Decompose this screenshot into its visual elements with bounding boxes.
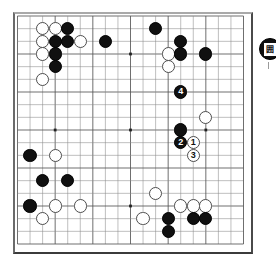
white-stone	[136, 212, 149, 225]
white-stone	[36, 47, 49, 60]
white-stone	[74, 35, 87, 48]
white-stone	[49, 22, 62, 35]
side-stone-glyph: 囲	[264, 43, 276, 56]
stone-layer: 4213	[13, 12, 253, 254]
stone-number-label: 4	[175, 86, 186, 97]
black-stone	[187, 212, 200, 225]
white-stone	[36, 212, 49, 225]
white-stone	[174, 199, 187, 212]
black-stone	[49, 47, 62, 60]
white-stone	[187, 199, 200, 212]
white-stone	[149, 187, 162, 200]
move-stone-2: 2	[174, 136, 187, 149]
stone-number-label: 3	[188, 150, 199, 161]
white-stone	[49, 199, 62, 212]
move-stone-1: 1	[187, 136, 200, 149]
side-tick-mark	[268, 62, 269, 69]
black-stone	[36, 174, 49, 187]
white-stone	[36, 35, 49, 48]
stone-number-label: 1	[188, 137, 199, 148]
white-stone	[36, 22, 49, 35]
white-stone	[74, 199, 87, 212]
black-stone	[149, 22, 162, 35]
go-diagram-root: 4213 囲	[0, 0, 276, 266]
move-stone-4: 4	[174, 85, 187, 98]
move-stone-3: 3	[187, 149, 200, 162]
black-stone	[174, 47, 187, 60]
black-stone	[99, 35, 112, 48]
stone-number-label: 2	[175, 137, 186, 148]
go-board[interactable]: 4213	[13, 12, 253, 254]
black-stone	[61, 35, 74, 48]
black-stone	[199, 212, 212, 225]
black-stone	[23, 199, 36, 212]
black-stone	[49, 35, 62, 48]
black-stone	[23, 149, 36, 162]
white-stone	[49, 149, 62, 162]
black-stone	[174, 123, 187, 136]
black-stone	[162, 212, 175, 225]
black-stone	[174, 35, 187, 48]
black-stone	[49, 60, 62, 73]
white-stone	[162, 60, 175, 73]
white-stone	[199, 111, 212, 124]
black-stone	[162, 225, 175, 238]
white-stone	[199, 199, 212, 212]
black-stone	[61, 22, 74, 35]
white-stone	[36, 73, 49, 86]
black-stone	[199, 47, 212, 60]
side-black-stone-icon: 囲	[259, 38, 276, 60]
black-stone	[61, 174, 74, 187]
white-stone	[162, 47, 175, 60]
